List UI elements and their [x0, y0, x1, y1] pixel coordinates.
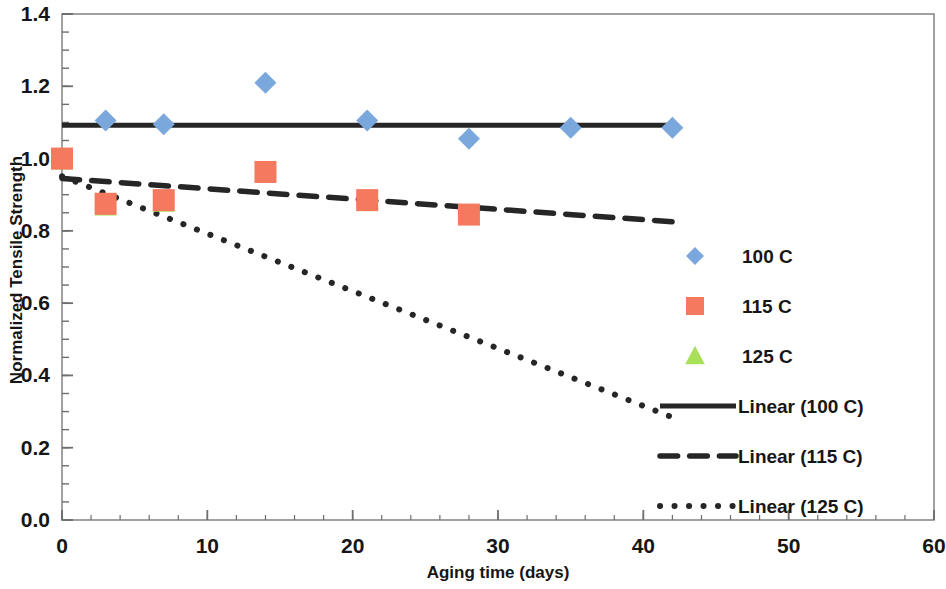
data-point-100c	[95, 110, 117, 132]
y-tick-label: 0.2	[21, 436, 50, 459]
y-tick-label: 1.2	[21, 74, 50, 97]
legend-marker-125c	[685, 346, 705, 365]
legend-label: Linear (115 C)	[738, 446, 863, 467]
x-axis-tick-labels: 0102030405060	[56, 534, 946, 557]
x-tick-label: 50	[777, 534, 800, 557]
data-point-100c	[153, 113, 175, 135]
x-tick-label: 20	[341, 534, 364, 557]
data-point-115c	[51, 148, 73, 170]
plot-area-border	[62, 14, 934, 520]
legend-marker-115c	[686, 297, 704, 315]
data-point-100c	[661, 117, 683, 139]
x-tick-label: 10	[196, 534, 219, 557]
data-point-115c	[153, 189, 175, 211]
x-tick-label: 40	[632, 534, 655, 557]
legend-label: 100 C	[742, 246, 793, 267]
chart-container: 0.00.20.40.60.81.01.21.4 0102030405060 1…	[0, 0, 946, 589]
data-point-100c	[458, 128, 480, 150]
series-markers-100c	[95, 72, 684, 150]
y-axis-minor-ticks	[62, 14, 69, 520]
legend-label: Linear (100 C)	[738, 396, 864, 417]
data-point-115c	[458, 204, 480, 226]
data-point-115c	[95, 193, 117, 215]
legend: 100 C115 C125 CLinear (100 C)Linear (115…	[660, 246, 864, 517]
y-tick-label: 1.4	[21, 2, 51, 25]
x-axis-title: Aging time (days)	[427, 563, 570, 582]
legend-label: 125 C	[742, 346, 793, 367]
trendline-linear-125-c-	[62, 176, 672, 417]
legend-label: 115 C	[742, 296, 792, 317]
data-point-100c	[356, 110, 378, 132]
x-tick-label: 0	[56, 534, 68, 557]
trendline-group	[62, 125, 684, 417]
legend-label: Linear (125 C)	[738, 496, 864, 517]
y-axis-title: Normalized Tensile Strength	[7, 156, 26, 384]
legend-marker-100c	[686, 247, 704, 265]
data-point-115c	[356, 189, 378, 211]
y-tick-label: 0.0	[21, 508, 50, 531]
data-point-115c	[254, 161, 276, 183]
chart-canvas: 0.00.20.40.60.81.01.21.4 0102030405060 1…	[0, 0, 946, 589]
data-point-100c	[254, 72, 276, 94]
x-tick-label: 60	[922, 534, 945, 557]
data-point-100c	[560, 117, 582, 139]
x-tick-label: 30	[486, 534, 509, 557]
series-markers-115c	[51, 148, 480, 226]
